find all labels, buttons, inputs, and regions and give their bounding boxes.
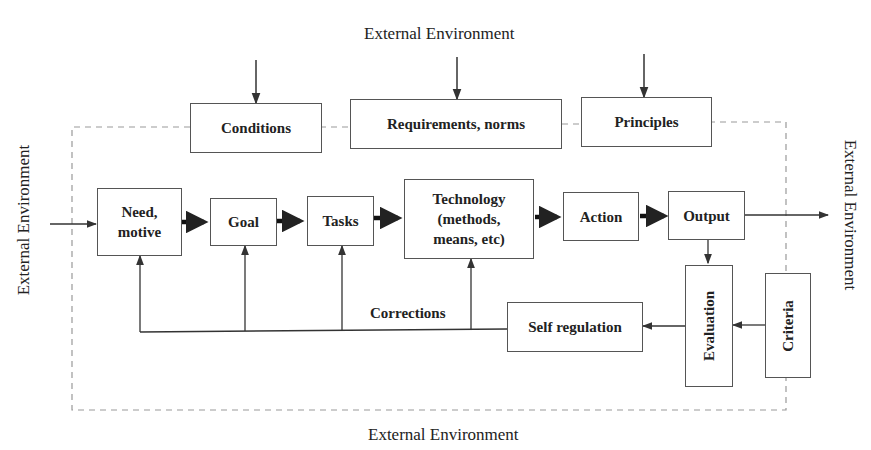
external-environment-top: External Environment — [364, 24, 515, 44]
action-box: Action — [563, 192, 639, 241]
tasks-label: Tasks — [322, 211, 358, 231]
tasks-box: Tasks — [307, 196, 374, 246]
conditions-label: Conditions — [221, 118, 291, 138]
goal-label: Goal — [228, 212, 259, 232]
principles-label: Principles — [614, 112, 678, 132]
conditions-box: Conditions — [190, 103, 322, 153]
requirements-label: Requirements, norms — [387, 114, 525, 134]
technology-means-label: means, etc) — [433, 229, 505, 249]
external-environment-left: External Environment — [14, 130, 34, 310]
principles-box: Principles — [581, 97, 712, 147]
external-environment-right: External Environment — [840, 125, 860, 305]
technology-label: Technology — [433, 189, 506, 209]
self-regulation-label: Self regulation — [528, 317, 621, 337]
output-box: Output — [668, 191, 745, 240]
evaluation-label: Evaluation — [699, 291, 719, 361]
corrections-label: Corrections — [370, 305, 446, 322]
output-label: Output — [683, 206, 730, 226]
self-regulation-box: Self regulation — [507, 302, 643, 352]
system-boundary — [72, 122, 786, 410]
external-environment-bottom: External Environment — [368, 425, 519, 445]
action-label: Action — [580, 207, 623, 227]
goal-box: Goal — [210, 198, 277, 246]
technology-box: Technology (methods, means, etc) — [404, 179, 534, 259]
requirements-box: Requirements, norms — [350, 99, 562, 149]
criteria-box: Criteria — [765, 273, 811, 378]
technology-methods-label: (methods, — [438, 209, 501, 229]
motive-label: motive — [118, 222, 161, 242]
criteria-label: Criteria — [778, 300, 798, 352]
need-motive-box: Need, motive — [97, 188, 182, 256]
need-label: Need, — [121, 202, 157, 222]
evaluation-box: Evaluation — [685, 265, 733, 387]
